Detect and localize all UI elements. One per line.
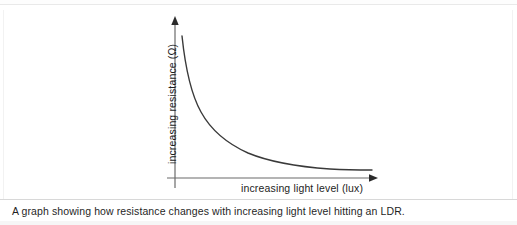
figure-caption: A graph showing how resistance changes w… [12,205,405,217]
page-bottom-band [0,221,517,225]
ldr-resistance-chart [0,4,517,199]
figure-page: increasing resistance (Ω) increasing lig… [0,0,517,225]
chart-plot-area [0,4,517,199]
y-axis-arrow-icon [171,16,178,25]
x-axis-arrow-icon [369,174,378,181]
x-axis-label: increasing light level (lux) [241,182,363,194]
resistance-curve [182,36,372,170]
y-axis-label: increasing resistance (Ω) [154,18,170,168]
y-axis-label-text: increasing resistance (Ω) [166,44,178,164]
